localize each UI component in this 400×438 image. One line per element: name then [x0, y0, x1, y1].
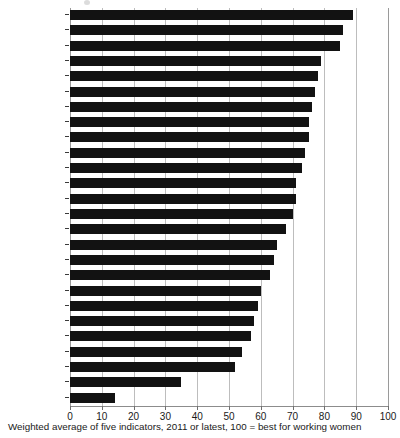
bar-row: Slovakia	[70, 238, 388, 253]
bar	[70, 178, 296, 188]
category-tick	[65, 182, 69, 183]
category-tick	[65, 60, 69, 61]
x-tick-20	[134, 406, 135, 410]
bar-row: New Zealand	[70, 8, 388, 23]
category-tick	[65, 152, 69, 153]
category-tick	[65, 320, 69, 321]
category-tick	[65, 29, 69, 30]
bar-row: Hungary	[70, 207, 388, 222]
x-tick-60	[261, 406, 262, 410]
bar	[70, 301, 258, 311]
bar-row: Finland	[70, 100, 388, 115]
bar	[70, 132, 309, 142]
x-tick-50	[229, 406, 230, 410]
x-tick-90	[356, 406, 357, 410]
category-tick	[65, 381, 69, 382]
category-tick	[65, 136, 69, 137]
chart-caption: Weighted average of five indicators, 201…	[8, 421, 361, 432]
bar	[70, 286, 261, 296]
bar-row: Denmark	[70, 146, 388, 161]
x-tick-80	[324, 406, 325, 410]
bar-row: Austria	[70, 284, 388, 299]
bar	[70, 163, 302, 173]
category-tick	[65, 274, 69, 275]
bar-row: Portugal	[70, 115, 388, 130]
category-tick	[65, 121, 69, 122]
bar	[70, 316, 254, 326]
x-tick-0	[70, 406, 71, 410]
bar-row: France	[70, 161, 388, 176]
bar-row: Canada	[70, 54, 388, 69]
category-tick	[65, 397, 69, 398]
bar-row: Poland	[70, 130, 388, 145]
top-decoration-mark	[84, 0, 90, 5]
category-tick	[65, 366, 69, 367]
bar	[70, 362, 235, 372]
bar	[70, 10, 353, 20]
bar	[70, 102, 312, 112]
bar	[70, 41, 340, 51]
bar-row: United States	[70, 176, 388, 191]
bar	[70, 148, 305, 158]
bar-row: Sweden	[70, 39, 388, 54]
bar	[70, 71, 318, 81]
bar	[70, 377, 181, 387]
category-tick	[65, 45, 69, 46]
bar	[70, 117, 309, 127]
x-tick-70	[293, 406, 294, 410]
bar-row: Norway	[70, 23, 388, 38]
bar-row: Australia	[70, 69, 388, 84]
category-tick	[65, 91, 69, 92]
bar-chart: New ZealandNorwaySwedenCanadaAustraliaSp…	[0, 0, 400, 438]
category-tick	[65, 335, 69, 336]
bar	[70, 255, 274, 265]
bar-row: Czech Republic	[70, 345, 388, 360]
bar-row: Italy	[70, 329, 388, 344]
bar-row: Germany	[70, 299, 388, 314]
bar-row: Greece	[70, 314, 388, 329]
bar-row: Spain	[70, 85, 388, 100]
bar	[70, 331, 251, 341]
bar-row: South Korea	[70, 391, 388, 406]
bar	[70, 240, 277, 250]
category-tick	[65, 228, 69, 229]
bar	[70, 393, 115, 403]
x-tick-10	[102, 406, 103, 410]
category-tick	[65, 305, 69, 306]
bar	[70, 25, 343, 35]
bar	[70, 224, 286, 234]
bar-row: Israel	[70, 253, 388, 268]
category-tick	[65, 75, 69, 76]
bar	[70, 347, 242, 357]
category-tick	[65, 198, 69, 199]
x-tick-100	[388, 406, 389, 410]
x-tick-label-100: 100	[368, 411, 400, 422]
bar-row: Britain	[70, 268, 388, 283]
x-tick-30	[165, 406, 166, 410]
gridline-100	[388, 8, 389, 406]
bar	[70, 270, 270, 280]
category-tick	[65, 213, 69, 214]
bar	[70, 56, 321, 66]
plot-area: New ZealandNorwaySwedenCanadaAustraliaSp…	[70, 8, 388, 406]
bar	[70, 209, 293, 219]
bar-row: Switzerland	[70, 360, 388, 375]
bar-row: Ireland	[70, 222, 388, 237]
bar	[70, 194, 296, 204]
category-tick	[65, 290, 69, 291]
category-tick	[65, 244, 69, 245]
category-tick	[65, 106, 69, 107]
bar	[70, 87, 315, 97]
category-tick	[65, 351, 69, 352]
x-tick-40	[197, 406, 198, 410]
category-tick	[65, 259, 69, 260]
category-tick	[65, 14, 69, 15]
bar-row: Japan	[70, 375, 388, 390]
bar-row: Belgium	[70, 192, 388, 207]
category-tick	[65, 167, 69, 168]
